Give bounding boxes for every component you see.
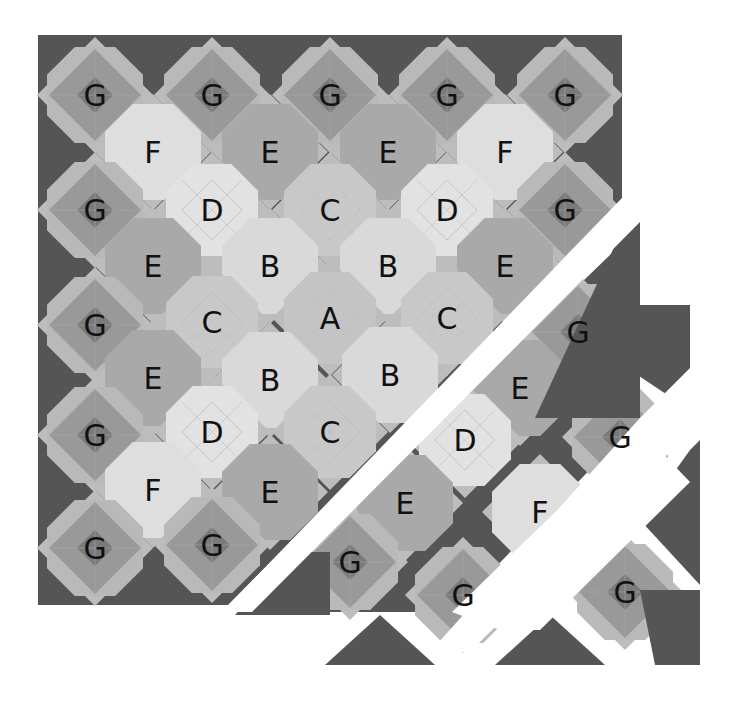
block-label: G — [83, 78, 106, 113]
block-label: D — [200, 193, 223, 228]
block-label: B — [260, 249, 281, 284]
block-label: E — [261, 475, 280, 510]
block-label: G — [200, 78, 223, 113]
block-label: C — [320, 415, 341, 450]
block-label: E — [261, 135, 280, 170]
block-label: G — [613, 575, 636, 610]
block-label: D — [453, 423, 476, 458]
block-label: A — [320, 301, 341, 336]
block-label: E — [496, 249, 515, 284]
block-label: B — [378, 249, 399, 284]
block-label: D — [200, 415, 223, 450]
block-label: E — [511, 371, 530, 406]
block-label: G — [83, 531, 106, 566]
block-label: E — [379, 135, 398, 170]
block-label: G — [435, 78, 458, 113]
block-label: E — [144, 361, 163, 396]
block-label: G — [608, 420, 631, 455]
block-label: G — [338, 545, 361, 580]
block-label: G — [83, 308, 106, 343]
block-label: E — [144, 249, 163, 284]
block-label: B — [260, 363, 281, 398]
corner-triangle — [325, 615, 435, 665]
corner-triangle — [640, 590, 700, 665]
block-label: C — [202, 305, 223, 340]
block-label: G — [83, 193, 106, 228]
block-label: F — [144, 135, 161, 170]
quilt-diagram: GGGGGFEEFGDCDGEBBEGCACGEBBEGDCDGFEEFGGGG… — [0, 0, 742, 702]
block-label: F — [144, 473, 161, 508]
block-label: B — [380, 358, 401, 393]
block-label: C — [437, 301, 458, 336]
block-label: G — [83, 418, 106, 453]
block-label: E — [396, 486, 415, 521]
block-label: F — [496, 135, 513, 170]
block-label: C — [320, 193, 341, 228]
block-label: G — [318, 78, 341, 113]
block-label: D — [435, 193, 458, 228]
block-label: F — [531, 495, 548, 530]
block-label: G — [451, 578, 474, 613]
block-label: G — [566, 315, 589, 350]
block-label: G — [553, 78, 576, 113]
block-label: G — [200, 528, 223, 563]
block-label: G — [553, 193, 576, 228]
